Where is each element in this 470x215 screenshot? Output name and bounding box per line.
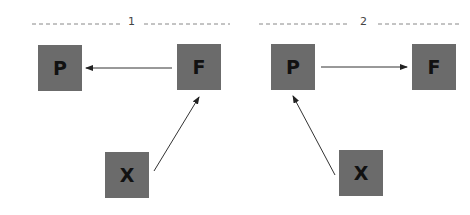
node-f-panel-1: F [177, 44, 221, 90]
diagram-canvas [0, 0, 470, 215]
node-x-panel-1: X [105, 152, 149, 198]
node-x-panel-2: X [339, 150, 383, 196]
node-f-panel-2: F [412, 44, 456, 90]
node-p-panel-1: P [38, 45, 82, 91]
edge-x-to-f-1 [154, 97, 199, 171]
edge-x-to-p-2 [293, 96, 335, 175]
node-p-panel-2: P [271, 44, 315, 90]
panel-1-label: 1 [122, 15, 141, 29]
panel-2-label: 2 [354, 15, 373, 29]
